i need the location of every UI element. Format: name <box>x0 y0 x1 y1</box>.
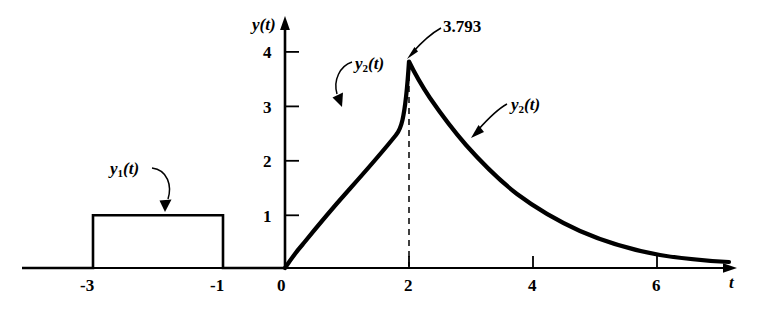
y-tick-label-2: 2 <box>263 153 272 170</box>
x-tick-label-4: 4 <box>528 277 537 294</box>
x-tick-label-minus1: -1 <box>210 277 224 294</box>
x-tick-label-0: 0 <box>277 277 286 294</box>
signal-plot-svg <box>0 0 760 316</box>
y-axis <box>280 16 290 268</box>
convolution-y2-trace <box>285 62 729 269</box>
y-tick-label-4: 4 <box>263 44 272 61</box>
decay-label-main: y <box>511 95 519 114</box>
x-axis <box>22 263 737 273</box>
rise-leader-arrow <box>333 62 353 107</box>
y-axis-label: y(t) <box>252 16 276 33</box>
pulse-label-tail: (t) <box>123 159 139 178</box>
y-axis-ticks <box>285 52 299 215</box>
pulse-label-main: y <box>110 159 118 178</box>
y-tick-label-3: 3 <box>263 99 272 116</box>
decay-leader-arrow <box>471 104 507 138</box>
x-tick-label-2: 2 <box>404 277 413 294</box>
figure-canvas: y(t) t 1 2 3 4 -3 -1 0 2 4 6 y1(t) y2(t)… <box>0 0 760 316</box>
x-axis-ticks <box>409 256 657 268</box>
decay-label-tail: (t) <box>524 95 540 114</box>
x-tick-label-minus3: -3 <box>80 277 94 294</box>
pulse-leader-arrow <box>152 168 172 212</box>
rise-label: y2(t) <box>355 55 384 74</box>
peak-leader-arrow <box>407 28 441 59</box>
y-tick-label-1: 1 <box>263 208 272 225</box>
pulse-label: y1(t) <box>110 160 139 179</box>
decay-label: y2(t) <box>511 96 540 115</box>
rise-label-tail: (t) <box>368 54 384 73</box>
rise-label-main: y <box>355 54 363 73</box>
x-axis-label: t <box>729 274 734 291</box>
x-tick-label-6: 6 <box>652 277 661 294</box>
pulse-y1-trace <box>22 215 285 268</box>
peak-value-label: 3.793 <box>443 18 481 35</box>
